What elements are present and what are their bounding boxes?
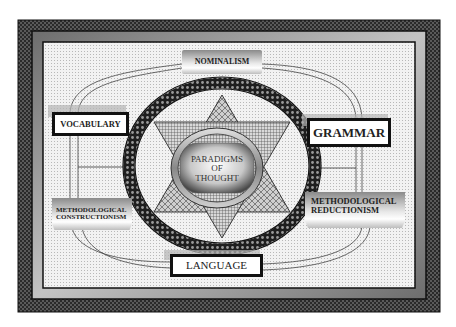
node-mr-line2: REDUCTIONISM: [311, 206, 379, 215]
node-language: LANGUAGE: [170, 254, 263, 277]
node-nominalism-label: NOMINALISM: [195, 58, 250, 66]
node-nominalism: NOMINALISM: [182, 50, 262, 74]
node-methodological-constructionism: METHODOLOGICAL CONSTRUCTIONISM: [52, 198, 132, 230]
node-vocabulary-label: VOCABULARY: [60, 120, 120, 129]
node-mc-line2: CONSTRUCTIONISM: [56, 214, 126, 221]
center-line-3: THOUGHT: [195, 174, 239, 183]
node-language-label: LANGUAGE: [186, 260, 247, 272]
node-methodological-reductionism: METHODOLOGICAL REDUCTIONISM: [305, 192, 405, 228]
node-grammar: GRAMMAR: [307, 118, 391, 147]
node-vocabulary: VOCABULARY: [52, 112, 129, 136]
center-label-paradigms-of-thought: PARADIGMS OF THOUGHT: [182, 147, 252, 191]
node-grammar-label: GRAMMAR: [313, 126, 385, 140]
